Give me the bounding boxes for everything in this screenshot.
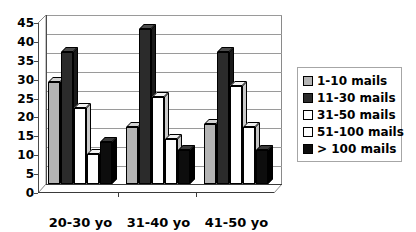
bar-side [190,145,195,184]
legend-label: 31-50 mails [317,109,396,121]
legend-swatch-icon [303,93,313,103]
bar-face [256,150,268,184]
y-tick-label: 25 [17,93,34,105]
bar-side [112,137,117,184]
legend-item[interactable]: 31-50 mails [303,106,397,123]
x-axis-line-back [46,184,282,185]
bar [230,86,242,184]
bar-face [230,86,242,184]
legend-item[interactable]: 51-100 mails [303,123,397,140]
bar [100,142,112,184]
plot-area: 051015202530354045 20-30 yo31-40 yo41-50… [38,15,282,193]
bar-group [204,14,274,184]
y-tick-label: 35 [17,55,34,67]
bar-face [87,154,99,184]
y-tick-mark [34,193,38,194]
legend-item[interactable]: 11-30 mails [303,89,397,106]
legend-item[interactable]: > 100 mails [303,140,397,157]
legend-label: 1-10 mails [317,75,387,87]
bar [126,127,138,184]
x-axis-label: 31-40 yo [127,215,191,230]
bar [243,127,255,184]
bar-face [126,127,138,184]
bar-face [152,97,164,184]
y-tick-label: 10 [17,149,34,161]
bar-group [48,14,118,184]
y-tick-label: 20 [17,111,34,123]
bars-layer [38,14,282,184]
bar-chart: 051015202530354045 20-30 yo31-40 yo41-50… [0,0,416,232]
y-tick-label: 0 [26,187,34,199]
y-tick-label: 40 [17,36,34,48]
bar-face [61,52,73,184]
bar-face [100,142,112,184]
legend-swatch-icon [303,144,313,154]
y-tick-label: 5 [26,168,34,180]
legend-label: 11-30 mails [317,92,396,104]
x-axis-line-front [38,192,274,193]
bar [152,97,164,184]
bar [61,52,73,184]
bar-face [48,82,60,184]
legend-label: 51-100 mails [317,126,404,138]
bar-face [217,52,229,184]
bar [256,150,268,184]
bar [217,52,229,184]
bar-face [204,124,216,184]
chart-legend: 1-10 mails11-30 mails31-50 mails51-100 m… [297,67,402,162]
bar [74,108,86,184]
bar [165,139,177,184]
y-tick-label: 30 [17,74,34,86]
bar-side [268,145,273,184]
x-tick-mark [196,192,197,197]
bar-face [178,150,190,184]
legend-label: > 100 mails [317,143,396,155]
bar [87,154,99,184]
legend-item[interactable]: 1-10 mails [303,72,397,89]
bar [204,124,216,184]
x-axis-label: 41-50 yo [205,215,269,230]
bar-face [74,108,86,184]
bar [48,82,60,184]
legend-swatch-icon [303,76,313,86]
legend-swatch-icon [303,127,313,137]
legend-swatch-icon [303,110,313,120]
x-axis-label: 20-30 yo [49,215,113,230]
bar-face [165,139,177,184]
bar-group [126,14,196,184]
bar [139,29,151,184]
y-tick-label: 45 [17,17,34,29]
x-tick-mark [118,192,119,197]
y-tick-label: 15 [17,130,34,142]
bar-face [243,127,255,184]
bar-face [139,29,151,184]
bar [178,150,190,184]
